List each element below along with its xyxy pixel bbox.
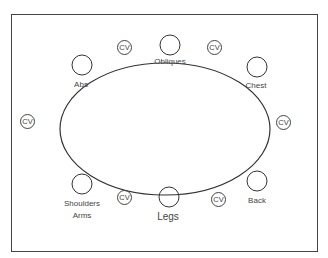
station-label-back: Back	[248, 196, 266, 206]
cv-station-1: CV	[117, 40, 132, 55]
station-label-shoulders: Shoulders	[64, 199, 100, 209]
station-label-arms: Arms	[73, 211, 92, 221]
station-circle-legs	[159, 187, 179, 207]
cv-station-5: CV	[117, 190, 132, 205]
oval-track	[60, 63, 270, 195]
station-circle-chest	[247, 57, 267, 77]
station-label-legs: Legs	[157, 212, 179, 222]
cv-station-6: CV	[211, 192, 226, 207]
station-circle-back	[247, 171, 267, 191]
cv-station-3: CV	[20, 114, 35, 129]
cv-station-2: CV	[207, 40, 222, 55]
station-circle-abs	[72, 55, 92, 75]
station-circle-shoulders-arms	[72, 174, 92, 194]
cv-station-4: CV	[276, 115, 291, 130]
station-label-chest: Chest	[246, 81, 267, 91]
station-label-abs: Abs	[74, 80, 88, 90]
station-circle-obliques	[160, 35, 180, 55]
station-label-obliques: Obliques	[154, 57, 186, 67]
